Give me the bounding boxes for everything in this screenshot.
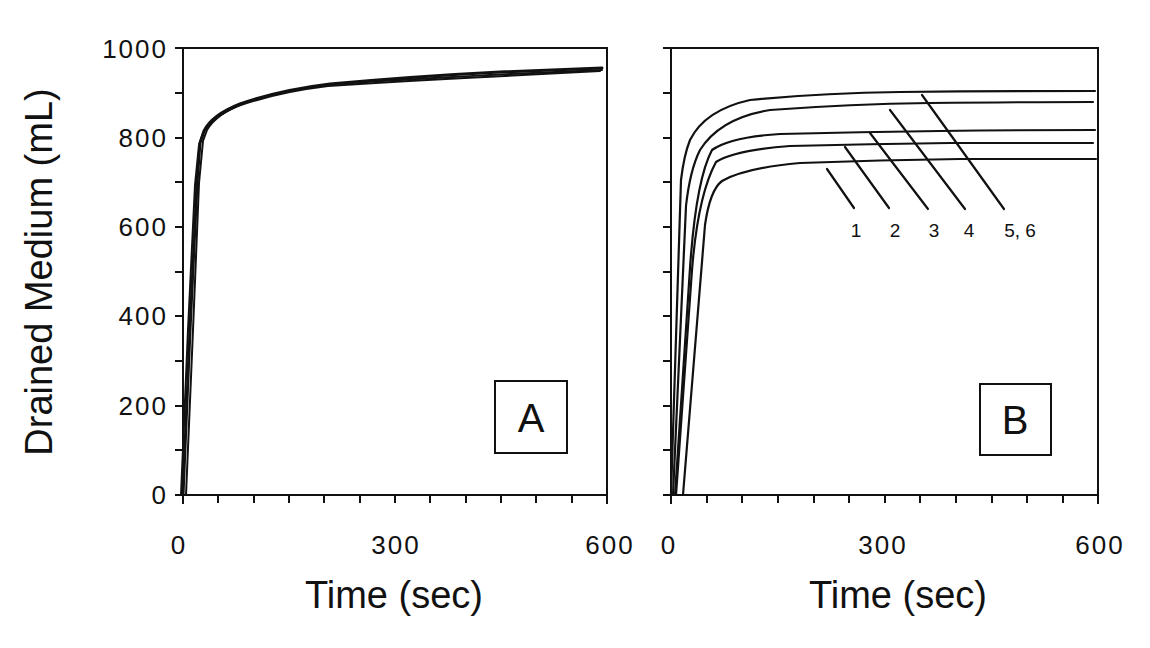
svg-text:200: 200	[119, 391, 168, 421]
svg-text:600: 600	[585, 530, 634, 560]
svg-text:600: 600	[119, 212, 168, 242]
panel-a: 0 200 400 600 800 1000 0 300 600 Time (s…	[102, 34, 635, 616]
curve-labels: 1 2 3 4 5, 6	[851, 220, 1036, 241]
svg-text:0: 0	[152, 480, 168, 510]
svg-text:600: 600	[1075, 530, 1124, 560]
svg-text:300: 300	[858, 530, 907, 560]
x-ticks-a	[183, 495, 607, 504]
y-ticks-a	[175, 48, 183, 495]
y-tick-labels-a: 0 200 400 600 800 1000	[102, 34, 168, 510]
svg-text:3: 3	[929, 220, 940, 241]
x-axis-title-b: Time (sec)	[809, 574, 987, 616]
x-ticks-b	[671, 495, 1098, 504]
svg-text:800: 800	[119, 123, 168, 153]
curve-leader-lines	[827, 95, 1004, 209]
x-tick-labels-b: 0 300 600	[661, 530, 1125, 560]
svg-text:1000: 1000	[102, 34, 168, 64]
svg-text:A: A	[518, 396, 545, 440]
x-tick-labels-a: 0 300 600	[171, 530, 635, 560]
svg-text:400: 400	[119, 301, 168, 331]
svg-text:4: 4	[964, 220, 975, 241]
svg-text:2: 2	[890, 220, 901, 241]
svg-text:1: 1	[851, 220, 862, 241]
svg-text:0: 0	[171, 530, 187, 560]
svg-text:0: 0	[661, 530, 677, 560]
y-axis-title: Drained Medium (mL)	[18, 88, 60, 455]
panel-b: 0 300 600 Time (sec) 1 2 3 4 5, 6	[661, 48, 1125, 616]
svg-text:5, 6: 5, 6	[1004, 220, 1036, 241]
y-ticks-b	[663, 48, 671, 495]
panel-label-a: A	[495, 381, 567, 453]
svg-text:B: B	[1002, 398, 1029, 442]
svg-text:300: 300	[371, 530, 420, 560]
figure: Drained Medium (mL) 0 200 400 600 800 10…	[0, 0, 1150, 648]
x-axis-title-a: Time (sec)	[305, 574, 483, 616]
panel-label-b: B	[980, 384, 1051, 455]
